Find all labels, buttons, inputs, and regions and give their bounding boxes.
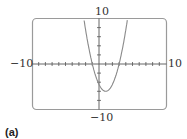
y-max-label: 10	[95, 6, 109, 17]
axes	[33, 19, 167, 110]
y-min-label: −10	[90, 112, 113, 123]
x-max-label: 10	[168, 58, 182, 69]
panel-label: (a)	[5, 126, 18, 138]
parabola-curve	[84, 20, 127, 91]
x-min-label: −10	[10, 58, 33, 69]
